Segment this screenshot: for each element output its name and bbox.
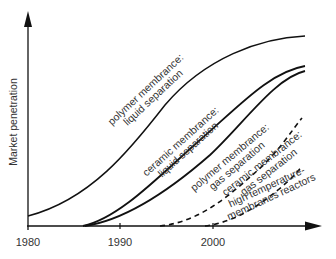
x-axis-arrow-icon xyxy=(305,222,322,231)
x-tick-label: 2000 xyxy=(201,236,225,248)
label-polymer-liquid-1: polymer membrance: xyxy=(105,51,185,127)
market-penetration-chart: 1980 1990 2000 Market penetration polyme… xyxy=(0,0,336,259)
x-tick-label: 1980 xyxy=(16,236,40,248)
y-axis-title: Market penetration xyxy=(7,78,19,166)
y-axis-arrow-icon xyxy=(24,11,32,27)
x-tick-label: 1990 xyxy=(108,236,132,248)
